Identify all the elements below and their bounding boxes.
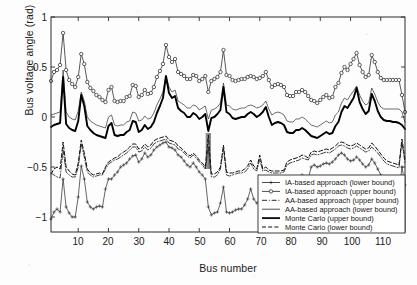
legend-item-label: IA-based approach (lower bound) <box>285 178 395 187</box>
legend-item-label: AA-based approach (lower bound) <box>285 205 398 214</box>
legend-item-label: IA-based approach (upper bound) <box>285 187 396 196</box>
series-monte-carlo-upper-bound- <box>51 76 405 138</box>
legend-box[interactable]: IA-based approach (lower bound)IA-based … <box>258 175 405 233</box>
legend-item-label: Monte Carlo (lower bound) <box>285 223 373 232</box>
series-monte-carlo-lower-bound- <box>51 135 405 175</box>
legend-item-label: AA-based approach (upper bound) <box>285 196 399 205</box>
legend-item-label: Monte Carlo (upper bound) <box>285 214 374 223</box>
series-ia-based-approach-upper-bound- <box>49 31 406 113</box>
chart-plot-area: IA-based approach (lower bound)IA-based … <box>0 0 417 285</box>
figure-canvas: Bus voltage angle (rad) 1 0.5 0 −0.5 −1 … <box>0 0 417 285</box>
dense-oscillation-cluster <box>206 133 210 169</box>
